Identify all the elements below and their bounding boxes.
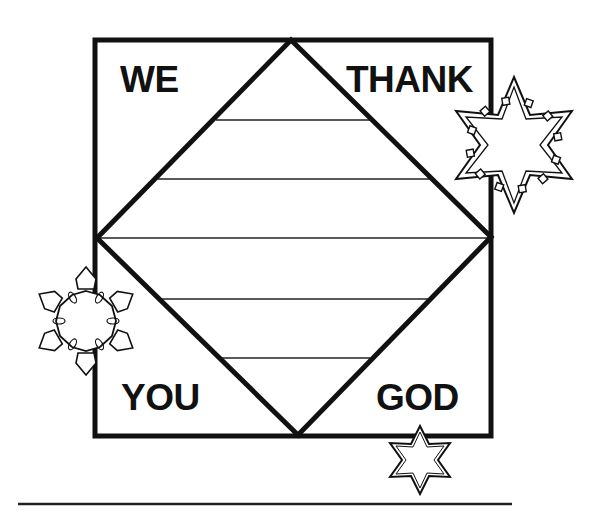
snowflake-medium-icon	[34, 267, 138, 375]
word-you: YOU	[121, 379, 200, 416]
word-god: GOD	[376, 379, 459, 416]
word-we: WE	[120, 61, 179, 98]
worksheet-canvas	[0, 0, 616, 527]
word-thank: THANK	[346, 61, 473, 98]
snowflake-large-icon	[456, 77, 572, 213]
writing-lines	[98, 120, 490, 358]
